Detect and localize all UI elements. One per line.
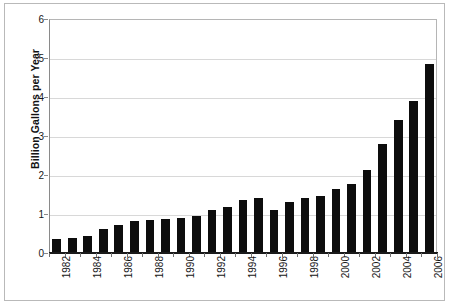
x-axis-tick-mark (173, 253, 174, 257)
bar (363, 170, 372, 253)
bar-slot (220, 19, 236, 253)
bar (316, 196, 325, 253)
bar-slot (313, 19, 329, 253)
bar-series (49, 19, 437, 253)
bar-slot (251, 19, 267, 253)
bar-slot (282, 19, 298, 253)
bar-slot (142, 19, 158, 253)
bar (285, 202, 294, 253)
x-axis-tick-label: 1986 (123, 256, 134, 300)
x-axis-tick-label: 1984 (92, 256, 103, 300)
y-axis-tick-mark (44, 214, 48, 215)
bar (208, 210, 217, 253)
bar (347, 184, 356, 253)
x-axis-tick-mark (80, 253, 81, 257)
bar (239, 200, 248, 253)
bar-slot (406, 19, 422, 253)
bar-slot (127, 19, 143, 253)
bar (99, 229, 108, 253)
bar (425, 64, 434, 253)
y-axis-tick-mark (44, 58, 48, 59)
bar (161, 219, 170, 253)
x-axis-tick-mark (359, 253, 360, 257)
bar (378, 144, 387, 253)
x-axis-tick-mark (421, 253, 422, 257)
bar (223, 207, 232, 253)
x-axis-tick-label: 2000 (340, 256, 351, 300)
bar (52, 239, 61, 253)
bar-slot (173, 19, 189, 253)
bar-slot (80, 19, 96, 253)
x-axis-tick-label: 1988 (154, 256, 165, 300)
y-axis-tick-mark (44, 136, 48, 137)
x-axis-tick-mark (142, 253, 143, 257)
x-axis-tick-label: 2006 (433, 256, 444, 300)
x-axis-tick-label: 1998 (309, 256, 320, 300)
x-axis-tick-mark (266, 253, 267, 257)
x-axis-tick-label: 2004 (402, 256, 413, 300)
x-axis-tick-mark (49, 253, 50, 257)
y-axis-tick-mark (44, 175, 48, 176)
y-axis-tick-mark (44, 97, 48, 98)
x-axis-tick-label: 1996 (278, 256, 289, 300)
bar-slot (344, 19, 360, 253)
bar (301, 198, 310, 253)
bar-slot (266, 19, 282, 253)
bar-slot (65, 19, 81, 253)
bar (114, 225, 123, 253)
bar-slot (49, 19, 65, 253)
x-axis-tick-mark (111, 253, 112, 257)
bar-slot (359, 19, 375, 253)
x-axis-tick-label: 1990 (185, 256, 196, 300)
y-axis-tick-label: 2 (4, 170, 44, 181)
x-axis-tick-label: 1992 (216, 256, 227, 300)
y-axis-tick-mark (44, 253, 48, 254)
bar-slot (111, 19, 127, 253)
bar-slot (297, 19, 313, 253)
chart-figure: Billion Gallons per Year 0123456 1982198… (0, 0, 450, 305)
x-axis-tick-label: 1982 (61, 256, 72, 300)
bar (146, 220, 155, 253)
bar (332, 189, 341, 253)
bar-slot (96, 19, 112, 253)
bar (177, 218, 186, 253)
bar (68, 238, 77, 253)
y-axis-tick-label: 4 (4, 92, 44, 103)
bar-slot (328, 19, 344, 253)
bar (254, 198, 263, 253)
bar-slot (204, 19, 220, 253)
bar (192, 216, 201, 253)
bar-slot (421, 19, 437, 253)
x-axis-tick-labels: 1982198419861988199019921994199619982000… (49, 258, 438, 302)
bar (270, 210, 279, 253)
y-axis-tick-label: 0 (4, 248, 44, 259)
y-axis-tick-label: 6 (4, 14, 44, 25)
x-axis-tick-label: 1994 (247, 256, 258, 300)
y-axis-tick-label: 1 (4, 209, 44, 220)
x-axis-tick-mark (328, 253, 329, 257)
bar-slot (158, 19, 174, 253)
x-axis-tick-mark (204, 253, 205, 257)
x-axis-tick-label: 2002 (371, 256, 382, 300)
bar-slot (375, 19, 391, 253)
y-axis-tick-label: 3 (4, 131, 44, 142)
y-axis-tick-label: 5 (4, 53, 44, 64)
x-axis-tick-mark (297, 253, 298, 257)
y-axis-ticks: 0123456 (0, 0, 44, 305)
bar (394, 120, 403, 253)
bar (83, 236, 92, 253)
bar (130, 221, 139, 253)
bar (409, 101, 418, 253)
bar-slot (390, 19, 406, 253)
bar-slot (189, 19, 205, 253)
y-axis-tick-mark (44, 19, 48, 20)
x-axis-tick-mark (390, 253, 391, 257)
bar-slot (235, 19, 251, 253)
x-axis-tick-mark (235, 253, 236, 257)
